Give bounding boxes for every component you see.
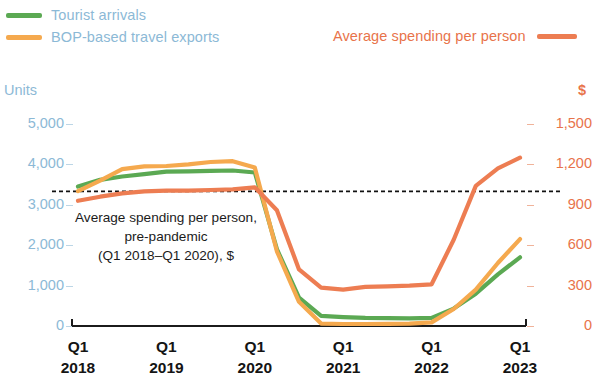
x-tick-year: 2022 — [387, 357, 477, 378]
reference-line-annotation: Average spending per person, pre-pandemi… — [52, 208, 280, 265]
x-tick-quarter: Q1 — [387, 336, 477, 357]
x-tick-year: 2020 — [210, 357, 300, 378]
x-tick-year: 2019 — [121, 357, 211, 378]
x-tick-quarter: Q1 — [210, 336, 300, 357]
x-tick-2018: Q12018 — [33, 336, 123, 378]
annotation-line-2: pre-pandemic — [52, 227, 280, 246]
x-tick-year: 2018 — [33, 357, 123, 378]
x-tick-2021: Q12021 — [298, 336, 388, 378]
x-tick-year: 2021 — [298, 357, 388, 378]
x-tick-quarter: Q1 — [121, 336, 211, 357]
x-tick-2023: Q12023 — [475, 336, 565, 378]
x-tick-2019: Q12019 — [121, 336, 211, 378]
chart-container: Tourist arrivals BOP-based travel export… — [0, 0, 592, 385]
x-tick-2022: Q12022 — [387, 336, 477, 378]
x-tick-quarter: Q1 — [33, 336, 123, 357]
x-tick-2020: Q12020 — [210, 336, 300, 378]
x-tick-year: 2023 — [475, 357, 565, 378]
plot-area — [0, 0, 592, 385]
annotation-line-3: (Q1 2018–Q1 2020), $ — [52, 246, 280, 265]
x-tick-quarter: Q1 — [298, 336, 388, 357]
x-tick-quarter: Q1 — [475, 336, 565, 357]
annotation-line-1: Average spending per person, — [52, 208, 280, 227]
